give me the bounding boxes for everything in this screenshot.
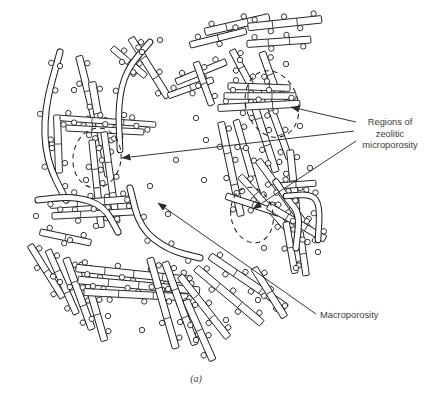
zeolite-pore — [119, 274, 125, 280]
zeolite-pore — [48, 137, 53, 142]
zeolite-pore — [185, 258, 190, 263]
zeolite-pore — [57, 63, 62, 68]
zeolite-pore — [230, 87, 235, 92]
zeolite-pore — [125, 197, 130, 202]
zeolite-pore — [300, 237, 305, 242]
annotation-label: Regions of — [368, 117, 413, 127]
zeolite-pore — [57, 207, 63, 213]
zeolite-pore — [87, 104, 93, 110]
annotation-label: Macroporosity — [320, 310, 379, 320]
zeolite-pore — [283, 177, 289, 183]
zeolite-pore — [119, 59, 124, 64]
zeolite-pore — [75, 218, 81, 224]
zeolite-pore — [300, 43, 306, 49]
zeolite-pore — [49, 60, 54, 65]
zeolite-pore — [37, 111, 42, 116]
zeolite-pore — [139, 49, 144, 54]
zeolite-pore — [71, 120, 77, 126]
crystal-lath-layer — [23, 8, 330, 364]
zeolite-pore — [294, 154, 300, 160]
zeolite-pore — [107, 297, 113, 303]
zeolite-pore — [256, 97, 262, 103]
zeolite-pore — [83, 177, 88, 182]
zeolite-pore — [264, 79, 270, 85]
zeolite-pore — [169, 241, 174, 246]
zeolite-pore — [255, 297, 260, 302]
zeolite-pore — [315, 249, 320, 254]
figure-caption: (a) — [190, 373, 202, 385]
zeolite-pore — [311, 210, 316, 215]
zeolite-pore — [113, 88, 118, 93]
zeolite-pore — [266, 87, 271, 92]
zeolite-pore — [57, 279, 62, 284]
zeolite-pore — [105, 313, 110, 318]
zeolite-pore — [237, 57, 242, 62]
zeolite-pore — [268, 46, 274, 52]
zeolite-pore — [86, 132, 92, 138]
zeolite-pore — [136, 45, 141, 50]
zeolite-pore — [297, 25, 303, 31]
zeolite-pore — [145, 127, 151, 133]
zeolite-pore — [284, 32, 290, 38]
annotation-label: zeolitic — [376, 129, 405, 139]
zeolite-pore — [97, 112, 103, 118]
zeolite-pore — [261, 245, 266, 250]
zeolite-pore — [240, 110, 246, 116]
zeolite-pore — [53, 88, 58, 93]
annotation-label-layer: Regions ofzeoliticmicroporosityMacroporo… — [320, 117, 418, 320]
zeolite-pore — [62, 160, 68, 166]
zeolite-pore — [173, 157, 178, 162]
zeolite-pore — [157, 37, 162, 42]
zeolite-pore — [311, 11, 317, 17]
zeolite-pore — [61, 122, 67, 128]
zeolite-pore — [93, 223, 98, 228]
annotation-leader-line — [291, 107, 356, 122]
zeolite-pore — [48, 201, 53, 206]
zeolite-pore — [49, 145, 54, 150]
zeolite-pore — [71, 87, 76, 92]
zeolite-pore — [121, 112, 126, 117]
zeolite-pore — [289, 95, 295, 101]
zeolite-pore — [141, 214, 146, 219]
zeolite-pore — [297, 123, 302, 128]
zeolite-pore — [129, 115, 135, 121]
annotation-label: microporosity — [362, 140, 418, 150]
rod-fill — [130, 188, 200, 258]
zeolite-pore — [115, 216, 120, 221]
zeolite-pore — [201, 177, 206, 182]
zeolite-pore — [72, 190, 77, 195]
lath-body — [228, 83, 290, 92]
zeolite-pore — [147, 183, 152, 188]
zeolite-pore — [252, 17, 258, 23]
zeolite-pore — [281, 246, 287, 252]
zeolite-pore — [193, 115, 198, 120]
zeolite-pore — [65, 110, 71, 116]
zeolite-pore — [97, 86, 103, 92]
zeolite-pore — [252, 34, 258, 40]
zeolite-pore — [84, 271, 90, 277]
zeolite-pore — [86, 164, 92, 170]
zeolite-pore — [99, 157, 105, 163]
zeolite-pore — [283, 171, 289, 177]
figure-container: Regions ofzeoliticmicroporosityMacroporo… — [0, 0, 431, 409]
zeolite-pore — [193, 337, 198, 342]
zeolite-pore — [96, 145, 102, 151]
zeolite-pore — [273, 108, 279, 114]
crystal-lath — [38, 223, 93, 251]
zeolite-pore — [290, 218, 295, 223]
zeolite-pore — [223, 317, 228, 322]
zeolite-pore — [131, 69, 136, 74]
zeolite-pore — [293, 265, 298, 270]
zeolite-microstructure-diagram: Regions ofzeoliticmicroporosityMacroporo… — [0, 0, 431, 409]
zeolite-pore — [165, 211, 170, 216]
zeolite-pore — [82, 259, 88, 265]
crystal-lath — [246, 31, 311, 53]
zeolite-pore — [283, 61, 288, 66]
zeolite-pore — [139, 327, 144, 332]
zeolite-pore — [141, 299, 147, 305]
zeolite-pore — [125, 285, 131, 291]
zeolite-pore — [203, 137, 208, 142]
zeolite-pore — [91, 206, 96, 211]
zeolite-pore — [145, 238, 150, 243]
zeolite-pore — [115, 263, 121, 269]
